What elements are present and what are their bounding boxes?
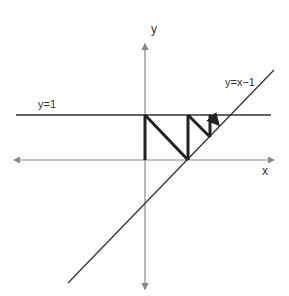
line-y-equals-x-minus-1 (68, 70, 274, 283)
cobweb-diagram: y x y=1 y=x−1 (0, 0, 289, 296)
y-axis-label: y (151, 22, 157, 36)
diagram-svg (0, 0, 289, 296)
y-equals-1-label: y=1 (38, 98, 56, 110)
cobweb-path (145, 115, 217, 160)
x-axis-label: x (262, 164, 268, 178)
y-equals-x-minus-1-label: y=x−1 (225, 76, 255, 88)
